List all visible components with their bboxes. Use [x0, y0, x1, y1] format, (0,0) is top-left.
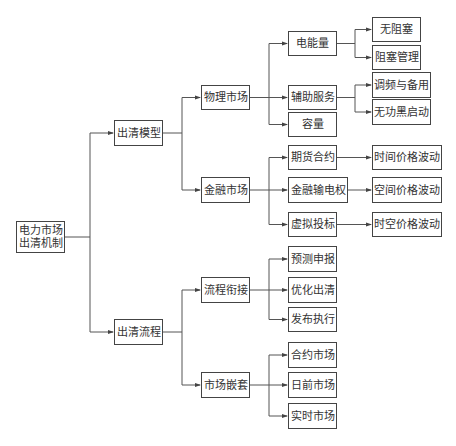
- node-reactive-blackstart: 无功黑启动: [372, 99, 431, 125]
- node-opt-clear: 优化出清: [288, 277, 337, 303]
- node-energy: 电能量: [288, 31, 337, 56]
- diagram-canvas: 电力市场 出清机制出清模型出清流程物理市场金融市场流程衔接市场嵌套电能量辅助服务…: [0, 0, 456, 446]
- node-freq-reserve: 调频与备用: [372, 72, 431, 98]
- node-time-price: 时间价格波动: [372, 145, 442, 170]
- node-no-congestion: 无阻塞: [372, 17, 421, 42]
- node-ftr: 金融输电权: [288, 177, 348, 203]
- node-virtual-bid: 虚拟投标: [288, 212, 337, 237]
- node-capacity: 容量: [288, 112, 337, 137]
- node-dayahead-market: 日前市场: [288, 372, 337, 398]
- node-root: 电力市场 出清机制: [16, 221, 65, 253]
- node-clear-model: 出清模型: [114, 120, 163, 146]
- node-contract-market: 合约市场: [288, 342, 337, 368]
- node-financial-market: 金融市场: [201, 177, 250, 203]
- node-congestion-mgmt: 阻塞管理: [372, 45, 421, 70]
- node-forecast-bid: 预测申报: [288, 246, 337, 272]
- node-ancillary: 辅助服务: [288, 85, 337, 110]
- node-futures: 期货合约: [288, 145, 337, 170]
- node-realtime-market: 实时市场: [288, 403, 337, 429]
- node-spacetime-price: 时空价格波动: [372, 212, 442, 237]
- node-market-nesting: 市场嵌套: [201, 372, 250, 398]
- node-physical-market: 物理市场: [201, 85, 250, 110]
- node-process-link: 流程衔接: [201, 277, 250, 303]
- node-space-price: 空间价格波动: [372, 177, 442, 203]
- node-clear-process: 出清流程: [114, 319, 163, 345]
- node-publish-exec: 发布执行: [288, 307, 337, 332]
